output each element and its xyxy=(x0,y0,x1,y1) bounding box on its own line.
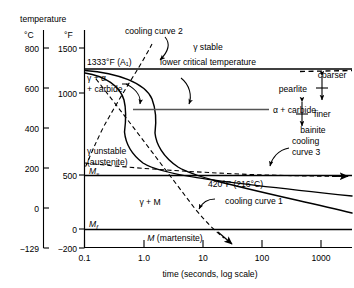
fahrenheit-tick-500: 500 xyxy=(63,171,78,181)
time-tick-0-1: 0.1 xyxy=(79,253,91,263)
celsius-unit-label: °C xyxy=(24,30,34,40)
time-tick-100: 100 xyxy=(255,253,270,263)
ttt-diagram-figure: temperature °C °F 800 600 400 200 0 −129… xyxy=(0,0,354,288)
temperature-axis-title: temperature xyxy=(20,14,67,24)
time-tick-1000: 1000 xyxy=(311,253,330,263)
fahrenheit-tick-minus200: −200 xyxy=(58,244,78,254)
celsius-tick-400: 400 xyxy=(25,124,40,134)
ttt-diagram-svg: temperature °C °F 800 600 400 200 0 −129… xyxy=(0,0,354,288)
gamma-plus-m-label: γ + M xyxy=(139,197,160,207)
gamma-stable-label: γ stable xyxy=(193,42,223,52)
celsius-tick-800: 800 xyxy=(25,44,40,54)
martensite-label: M (martensite) xyxy=(147,233,203,243)
time-tick-1-0: 1.0 xyxy=(138,253,150,263)
fahrenheit-tick-1000: 1000 xyxy=(58,89,77,99)
alpha-carbide-label: α + carbide xyxy=(273,105,316,115)
finer-label: finer xyxy=(314,109,331,119)
time-axis-title: time (seconds, log scale) xyxy=(162,269,257,279)
celsius-tick-minus129: −129 xyxy=(20,244,40,254)
a1-temperature-label: 1333°F (A₁) xyxy=(87,57,132,67)
lower-critical-temperature-label: lower critical temperature xyxy=(160,57,256,67)
gamma-alpha-carbide-label-line2: + carbide xyxy=(87,84,123,94)
cooling-curve-3-label-line1: cooling xyxy=(292,136,319,146)
fahrenheit-tick-1500: 1500 xyxy=(58,44,77,54)
bainite-label: bainite xyxy=(300,125,326,135)
celsius-tick-0: 0 xyxy=(34,204,39,214)
gamma-alpha-carbide-label-line1: γ + α xyxy=(87,73,106,83)
pearlite-label: pearlite xyxy=(279,84,307,94)
gamma-unstable-label-line1: γ unstable xyxy=(87,146,126,156)
celsius-tick-600: 600 xyxy=(25,84,40,94)
cooling-curve-3-label-line2: curve 3 xyxy=(292,147,320,157)
cooling-curve-2-label: cooling curve 2 xyxy=(125,26,183,36)
celsius-tick-200: 200 xyxy=(25,164,40,174)
cooling-curve-1-label: cooling curve 1 xyxy=(225,196,283,206)
fahrenheit-unit-label: °F xyxy=(64,30,73,40)
fahrenheit-tick-0: 0 xyxy=(72,225,77,235)
time-tick-10: 10 xyxy=(198,253,208,263)
